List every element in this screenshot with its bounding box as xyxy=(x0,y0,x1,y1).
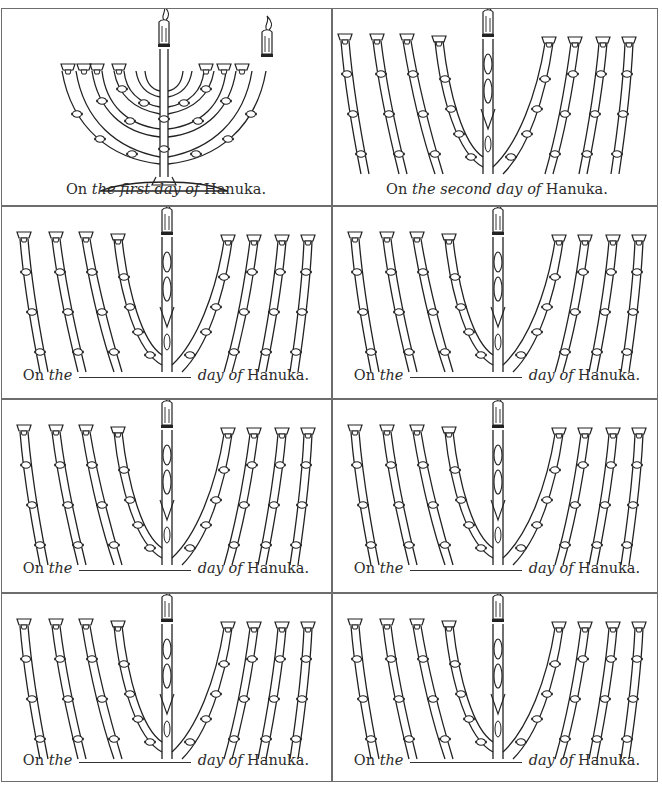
caption-on: On xyxy=(354,560,375,576)
card-caption: On the day of Hanuka. xyxy=(2,367,330,383)
caption-hanuka: Hanuka. xyxy=(546,181,608,197)
day-blank-line[interactable] xyxy=(410,761,522,763)
caption-the: the xyxy=(49,752,73,768)
card-caption: On the first day of Hanuka. xyxy=(2,181,330,197)
card-day-4: On the day of Hanuka. xyxy=(333,207,661,398)
day-blank-line[interactable] xyxy=(410,569,522,571)
caption-on: On xyxy=(23,752,44,768)
caption-hanuka: Hanuka. xyxy=(247,560,309,576)
caption-the: the xyxy=(380,367,404,383)
caption-day-of: day of xyxy=(198,752,243,768)
caption-day-of: day of xyxy=(198,560,243,576)
caption-day-of: day of xyxy=(529,752,574,768)
card-day-8: On the day of Hanuka. xyxy=(333,594,661,782)
caption-on: On xyxy=(66,181,87,197)
caption-on: On xyxy=(23,367,44,383)
caption-the: the xyxy=(380,560,404,576)
day-blank-line[interactable] xyxy=(79,569,191,571)
card-caption: On the second day of Hanuka. xyxy=(333,181,661,197)
menorah-illustration xyxy=(333,9,661,205)
card-caption: On the day of Hanuka. xyxy=(333,752,661,768)
card-day-5: On the day of Hanuka. xyxy=(2,400,330,592)
card-caption: On the day of Hanuka. xyxy=(2,752,330,768)
caption-on: On xyxy=(354,752,375,768)
caption-middle: the first day of xyxy=(92,181,200,197)
menorah-illustration xyxy=(2,9,330,205)
caption-hanuka: Hanuka. xyxy=(578,367,640,383)
card-day-7: On the day of Hanuka. xyxy=(2,594,330,782)
caption-hanuka: Hanuka. xyxy=(247,752,309,768)
card-caption: On the day of Hanuka. xyxy=(333,367,661,383)
caption-hanuka: Hanuka. xyxy=(204,181,266,197)
caption-hanuka: Hanuka. xyxy=(247,367,309,383)
card-day-3: On the day of Hanuka. xyxy=(2,207,330,398)
day-blank-line[interactable] xyxy=(79,376,191,378)
caption-middle: the second day of xyxy=(412,181,541,197)
card-day-2: On the second day of Hanuka. xyxy=(333,9,661,205)
card-day-1: On the first day of Hanuka. xyxy=(2,9,330,205)
caption-hanuka: Hanuka. xyxy=(578,560,640,576)
caption-the: the xyxy=(380,752,404,768)
caption-the: the xyxy=(49,560,73,576)
caption-hanuka: Hanuka. xyxy=(578,752,640,768)
card-caption: On the day of Hanuka. xyxy=(2,560,330,576)
day-blank-line[interactable] xyxy=(410,376,522,378)
caption-day-of: day of xyxy=(198,367,243,383)
caption-the: the xyxy=(49,367,73,383)
caption-day-of: day of xyxy=(529,560,574,576)
card-caption: On the day of Hanuka. xyxy=(333,560,661,576)
caption-on: On xyxy=(386,181,407,197)
caption-on: On xyxy=(354,367,375,383)
caption-day-of: day of xyxy=(529,367,574,383)
day-blank-line[interactable] xyxy=(79,761,191,763)
card-day-6: On the day of Hanuka. xyxy=(333,400,661,592)
caption-on: On xyxy=(23,560,44,576)
worksheet-grid: On the first day of Hanuka. On the secon… xyxy=(1,8,658,782)
